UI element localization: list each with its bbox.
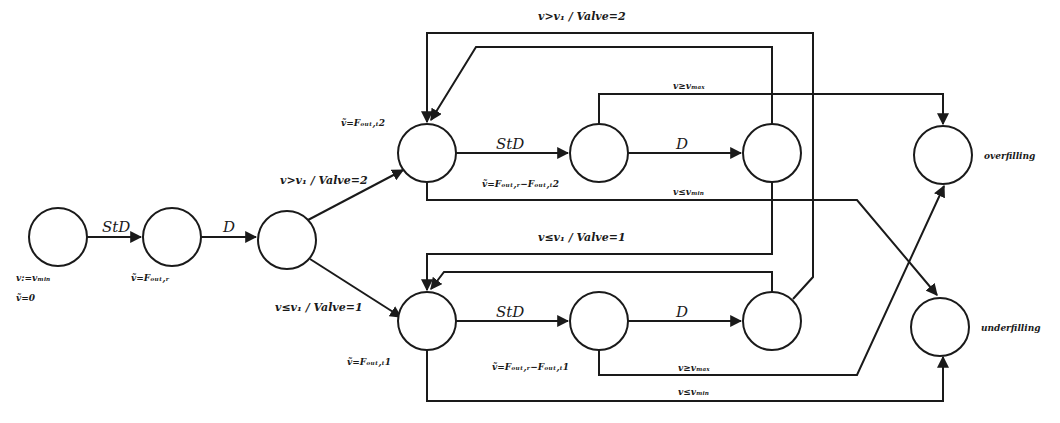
label-t1-d: D (675, 303, 688, 321)
state-underfilling (911, 298, 969, 356)
state-t2-c (743, 124, 801, 182)
label-t1-vmax: v≥vₘₐₓ (678, 363, 710, 373)
state-overfilling (914, 126, 972, 184)
label-t2-b: ṽ=Fₒᵤₜ,ᵣ−Fₒᵤₜ,ₜ2 (482, 179, 559, 190)
label-loop-to-t2: v>v₁ / Valve=2 (538, 10, 626, 23)
label-t1-vmin: v≤vₘᵢₙ (678, 387, 709, 397)
state-split (258, 211, 316, 269)
state-diagram: v:=vₘᵢₙ ṽ=0 ṽ=Fₒᵤₜ,ᵣ StD D v>v₁ / Valve=… (0, 0, 1060, 423)
label-init-1: v:=vₘᵢₙ (16, 273, 50, 283)
label-t1-a: ṽ=Fₒᵤₜ,ₜ1 (347, 357, 391, 368)
label-init-to-r: StD (102, 218, 130, 236)
state-fill-r (143, 208, 201, 266)
label-split-to-t1: v≤v₁ / Valve=1 (275, 301, 363, 314)
edge-loop-t2c-to-t2a (431, 47, 772, 124)
label-t2-a: ṽ=Fₒᵤₜ,ₜ2 (341, 118, 385, 129)
state-t2-a (398, 124, 456, 182)
label-loop-to-t1: v≤v₁ / Valve=1 (538, 231, 626, 244)
label-init-2: ṽ=0 (16, 293, 36, 303)
state-t1-b (570, 292, 628, 350)
label-underfilling: underfilling (981, 323, 1040, 333)
label-r-to-split: D (222, 218, 235, 236)
state-t2-b (570, 124, 628, 182)
label-t2-std: StD (496, 135, 524, 153)
label-t1-b: ṽ=Fₒᵤₜ,ᵣ−Fₒᵤₜ,ₜ1 (492, 362, 569, 373)
label-split-to-t2: v>v₁ / Valve=2 (280, 174, 368, 187)
edge-loop-t1c-to-t1a (431, 272, 772, 292)
label-fill-r: ṽ=Fₒᵤₜ,ᵣ (131, 273, 170, 284)
label-t2-vmin: v≤vₘᵢₙ (673, 187, 704, 197)
state-t1-a (398, 292, 456, 350)
label-t1-std: StD (496, 303, 524, 321)
state-t1-c (743, 292, 801, 350)
edge-t2-to-underfilling (427, 182, 937, 295)
state-init (29, 208, 87, 266)
label-overfilling: overfilling (984, 151, 1035, 161)
label-t2-d: D (675, 135, 688, 153)
label-t2-vmax: v≥vₘₐₓ (673, 81, 705, 91)
